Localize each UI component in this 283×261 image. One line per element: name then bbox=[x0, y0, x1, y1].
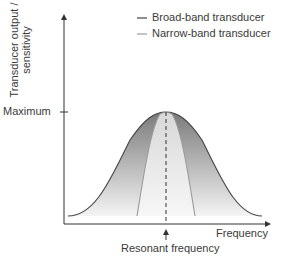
legend-label-narrow: Narrow-band transducer bbox=[152, 27, 271, 39]
y-axis-label-line2: sensitivity bbox=[20, 2, 32, 98]
chart-canvas bbox=[0, 0, 283, 261]
maximum-label: Maximum bbox=[3, 105, 51, 117]
resonant-frequency-label: Resonant frequency bbox=[121, 242, 219, 254]
legend-label-broad: Broad-band transducer bbox=[152, 11, 265, 23]
x-axis-label: Frequency bbox=[216, 227, 268, 239]
y-axis-label: Transducer output / sensitivity bbox=[8, 2, 32, 98]
y-axis-label-line1: Transducer output / bbox=[8, 2, 20, 98]
